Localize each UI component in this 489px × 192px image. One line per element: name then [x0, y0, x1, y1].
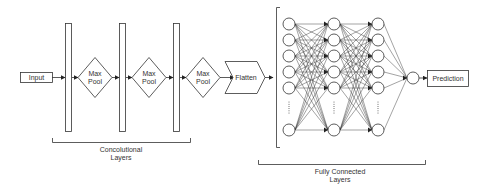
fc-node: [283, 124, 295, 136]
flatten-label: Flatten: [232, 72, 260, 83]
fc-node: [372, 82, 384, 94]
fc-node: [372, 66, 384, 78]
fc-node: [283, 18, 295, 30]
maxpool-label-2: Max Pool: [134, 70, 164, 86]
fc-node: [283, 34, 295, 46]
fc-bracket: [277, 8, 281, 148]
fc-group-label: Fully Connected Layers: [295, 168, 385, 184]
fc-node: [372, 34, 384, 46]
fc-node: [283, 82, 295, 94]
maxpool-label-1-line1: Max: [80, 70, 110, 78]
fc-group-brace: [259, 160, 426, 165]
fc-node: [328, 34, 340, 46]
fc-node: [283, 50, 295, 62]
conv-layer-1: [66, 24, 72, 132]
output-node: [407, 72, 419, 84]
fc-node: [372, 124, 384, 136]
maxpool-label-1: Max Pool: [80, 70, 110, 86]
fc-group-label-line1: Fully Connected: [295, 168, 385, 176]
maxpool-label-3-line1: Max: [188, 70, 218, 78]
conv-group-label: Concolutional Layers: [80, 146, 162, 162]
cnn-diagram-canvas: [0, 0, 489, 192]
maxpool-label-3: Max Pool: [188, 70, 218, 86]
fc-node: [328, 50, 340, 62]
fc-node: [283, 66, 295, 78]
prediction-label: Prediction: [427, 72, 469, 85]
input-label: Input: [20, 72, 53, 83]
fc-node: [328, 124, 340, 136]
maxpool-label-2-line1: Max: [134, 70, 164, 78]
conv-group-label-line2: Layers: [80, 154, 162, 162]
fc-node: [328, 82, 340, 94]
fc-connections: [295, 24, 407, 130]
fc-node: [372, 50, 384, 62]
fc-node: [372, 18, 384, 30]
fc-node: [328, 66, 340, 78]
maxpool-label-2-line2: Pool: [134, 78, 164, 86]
maxpool-label-3-line2: Pool: [188, 78, 218, 86]
conv-layer-3: [174, 24, 180, 132]
fc-group-label-line2: Layers: [295, 176, 385, 184]
conv-group-label-line1: Concolutional: [80, 146, 162, 154]
conv-group-brace: [53, 138, 191, 143]
conv-layer-2: [120, 24, 126, 132]
fc-node: [328, 18, 340, 30]
maxpool-label-1-line2: Pool: [80, 78, 110, 86]
